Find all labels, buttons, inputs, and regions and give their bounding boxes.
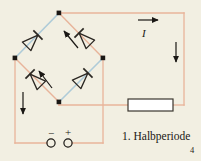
page-number: 4 [190, 146, 194, 155]
node-bottom [57, 100, 62, 105]
ac-terminals [47, 139, 72, 147]
circuit-figure: I − + 1. Halbperiode 4 [0, 0, 201, 161]
bridge-nodes [13, 11, 106, 105]
terminal-negative-sign: − [48, 128, 54, 139]
diode-bottom-left [25, 69, 46, 90]
bridge-branch-bottom-left [15, 58, 59, 102]
current-label: I [142, 28, 146, 39]
load-resistor [128, 99, 173, 111]
terminal-positive-sign: + [65, 127, 71, 138]
terminal-positive [64, 139, 72, 147]
terminal-negative [47, 139, 55, 147]
bridge-branch-bottom-right [59, 58, 103, 102]
node-right [101, 56, 106, 61]
bridge-branch-top-right [59, 13, 103, 58]
arrow-bridge-upper [64, 31, 78, 48]
figure-caption: 1. Halbperiode [122, 131, 190, 143]
node-top [57, 11, 62, 16]
node-left [13, 56, 18, 61]
